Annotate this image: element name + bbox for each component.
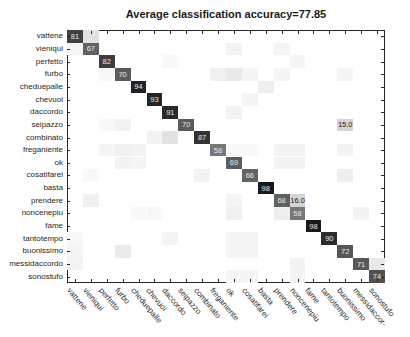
matrix-cell [337, 169, 353, 182]
x-tick [329, 31, 330, 34]
matrix-cell [194, 169, 210, 182]
matrix-cell [274, 157, 290, 170]
x-tick [282, 279, 283, 282]
y-tick [381, 226, 384, 227]
chart-title: Average classification accuracy=77.85 [67, 8, 385, 20]
x-tick [234, 31, 235, 34]
matrix-cell-diagonal: 98 [306, 220, 322, 233]
matrix-cell-diagonal: 94 [131, 81, 147, 94]
matrix-cell-diagonal: 82 [99, 55, 115, 68]
matrix-cell [242, 93, 258, 106]
x-tick [298, 31, 299, 34]
matrix-cell-diagonal: 91 [162, 106, 178, 119]
y-tick-label: cheduepalle [20, 82, 63, 92]
x-tick [91, 31, 92, 34]
x-tick [186, 279, 187, 282]
x-tick-label: ok [224, 286, 236, 298]
matrix-cell-diagonal: 58 [210, 144, 226, 157]
y-tick [67, 150, 70, 151]
confusion-matrix-plot: 15.016.081678270949391708758696698685898… [67, 30, 385, 283]
y-tick-label: noncenepiu [22, 208, 63, 218]
x-tick [154, 31, 155, 34]
x-tick [329, 279, 330, 282]
matrix-cell [290, 157, 306, 170]
y-tick-label: combinato [26, 133, 63, 143]
matrix-cell-diagonal: 66 [242, 169, 258, 182]
y-tick [67, 188, 70, 189]
x-tick [170, 31, 171, 34]
x-tick [345, 279, 346, 282]
x-tick [107, 31, 108, 34]
x-tick [75, 31, 76, 34]
matrix-cell [83, 194, 99, 207]
y-tick [67, 62, 70, 63]
x-tick [266, 31, 267, 34]
matrix-cell [99, 119, 115, 132]
y-tick [381, 49, 384, 50]
matrix-cell-diagonal: 93 [147, 93, 163, 106]
y-tick [381, 163, 384, 164]
matrix-cell [115, 157, 131, 170]
y-tick-label: furbo [45, 69, 63, 79]
matrix-cell-diagonal: 70 [115, 68, 131, 81]
y-tick [381, 62, 384, 63]
matrix-cell [226, 106, 242, 119]
y-tick [381, 277, 384, 278]
y-tick [67, 49, 70, 50]
y-tick-label: vieniqui [36, 44, 63, 54]
matrix-cell [274, 43, 290, 56]
matrix-cell [274, 207, 290, 220]
matrix-cell [242, 232, 258, 245]
matrix-cell-diagonal: 70 [178, 119, 194, 132]
matrix-cell-diagonal: 71 [353, 258, 369, 271]
x-tick [377, 31, 378, 34]
matrix-cell [131, 157, 147, 170]
x-tick [313, 279, 314, 282]
matrix-cell [162, 55, 178, 68]
x-tick [170, 279, 171, 282]
x-tick [218, 279, 219, 282]
matrix-cell [131, 144, 147, 157]
matrix-cell [226, 68, 242, 81]
matrix-cell [226, 194, 242, 207]
x-tick [123, 279, 124, 282]
x-tick [234, 279, 235, 282]
matrix-cell [274, 144, 290, 157]
matrix-cell [242, 68, 258, 81]
y-tick [381, 239, 384, 240]
y-tick [67, 251, 70, 252]
y-tick [381, 150, 384, 151]
matrix-cell [226, 232, 242, 245]
matrix-cell [337, 68, 353, 81]
y-tick [381, 36, 384, 37]
y-tick [381, 87, 384, 88]
x-tick [298, 279, 299, 282]
y-tick-label: seipazzo [31, 120, 63, 130]
x-tick [154, 279, 155, 282]
y-tick [67, 74, 70, 75]
matrix-cell [274, 68, 290, 81]
x-tick [250, 279, 251, 282]
y-tick-label: ok [55, 158, 63, 168]
matrix-cell [290, 258, 306, 271]
y-tick-label: tantotempo [23, 234, 63, 244]
y-tick-label: buonissimo [23, 246, 63, 256]
y-tick-label: chevuoi [35, 95, 63, 105]
matrix-cell [115, 144, 131, 157]
y-tick [381, 138, 384, 139]
matrix-cell [162, 232, 178, 245]
x-tick [123, 31, 124, 34]
y-tick [381, 175, 384, 176]
matrix-cell-diagonal: 72 [337, 245, 353, 258]
matrix-cell-diagonal: 67 [83, 43, 99, 56]
matrix-cell [290, 144, 306, 157]
matrix-cell [99, 68, 115, 81]
matrix-cell [210, 68, 226, 81]
y-tick-label: daccordo [30, 107, 63, 117]
matrix-cell-annotated: 16.0 [290, 194, 306, 207]
y-tick-label: sonostufo [28, 272, 63, 282]
y-tick [67, 264, 70, 265]
y-tick [381, 201, 384, 202]
matrix-cell-diagonal: 58 [290, 207, 306, 220]
y-tick-label: prendere [31, 196, 63, 206]
